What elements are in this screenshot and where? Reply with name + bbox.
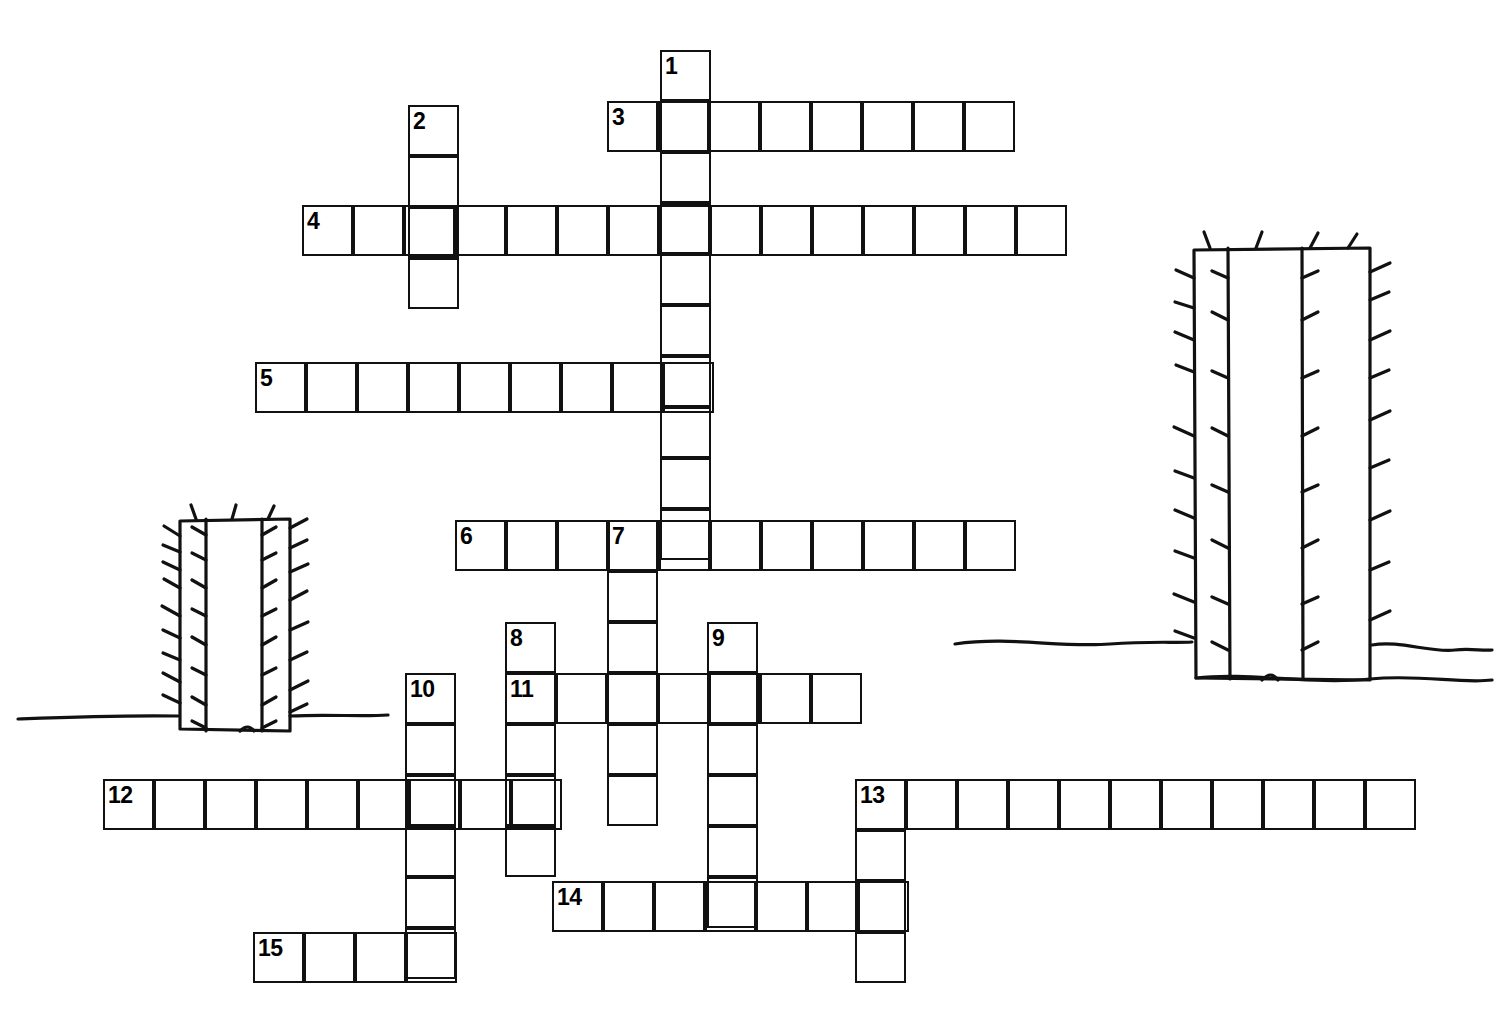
crossword-cell[interactable] (1212, 779, 1263, 830)
crossword-cell[interactable] (660, 458, 711, 509)
crossword-cell[interactable] (505, 724, 556, 775)
crossword-cell[interactable] (906, 779, 957, 830)
crossword-cell[interactable] (561, 362, 612, 413)
crossword-cell[interactable] (603, 881, 654, 932)
crossword-cell[interactable] (557, 205, 608, 256)
crossword-cell[interactable] (406, 932, 457, 983)
crossword-cell[interactable] (1263, 779, 1314, 830)
crossword-cell[interactable] (409, 779, 460, 830)
crossword-cell[interactable] (707, 826, 758, 877)
clue-number-14: 14 (557, 886, 582, 909)
crossword-cell[interactable] (607, 775, 658, 826)
crossword-cell[interactable] (1365, 779, 1416, 830)
clue-number-13: 13 (860, 784, 885, 807)
crossword-cell[interactable] (663, 362, 714, 413)
crossword-cell[interactable] (862, 101, 913, 152)
crossword-cell[interactable] (811, 673, 862, 724)
crossword-cell[interactable] (306, 362, 357, 413)
crossword-cell[interactable] (965, 520, 1016, 571)
crossword-cell[interactable] (913, 101, 964, 152)
crossword-cell[interactable] (353, 205, 404, 256)
crossword-cell[interactable] (460, 779, 511, 830)
crossword-cell[interactable] (964, 101, 1015, 152)
crossword-cell[interactable] (506, 205, 557, 256)
crossword-cell[interactable] (154, 779, 205, 830)
crossword-cell[interactable] (855, 830, 906, 881)
crossword-cell[interactable] (710, 520, 761, 571)
crossword-cell[interactable] (557, 520, 608, 571)
crossword-cell[interactable] (812, 520, 863, 571)
crossword-grid[interactable]: 123456789101112131415 (0, 0, 1497, 1022)
crossword-cell[interactable] (914, 520, 965, 571)
crossword-cell[interactable] (660, 305, 711, 356)
crossword-cell[interactable] (556, 673, 607, 724)
crossword-cell[interactable] (709, 673, 760, 724)
crossword-cell[interactable] (705, 881, 756, 932)
crossword-cell[interactable] (863, 205, 914, 256)
crossword-cell[interactable] (1059, 779, 1110, 830)
crossword-cell[interactable] (1161, 779, 1212, 830)
crossword-cell[interactable] (404, 205, 455, 256)
crossword-cell[interactable] (654, 881, 705, 932)
crossword-cell[interactable] (408, 258, 459, 309)
crossword-cell[interactable] (965, 205, 1016, 256)
crossword-cell[interactable] (855, 932, 906, 983)
crossword-cell[interactable] (957, 779, 1008, 830)
crossword-cell[interactable] (455, 205, 506, 256)
crossword-cell[interactable] (408, 156, 459, 207)
clue-number-3: 3 (612, 106, 624, 129)
crossword-cell[interactable] (511, 779, 562, 830)
crossword-cell[interactable] (607, 571, 658, 622)
crossword-cell[interactable] (506, 520, 557, 571)
crossword-cell[interactable] (659, 205, 710, 256)
crossword-cell[interactable] (405, 724, 456, 775)
crossword-cell[interactable] (357, 362, 408, 413)
crossword-cell[interactable] (812, 205, 863, 256)
crossword-cell[interactable] (756, 881, 807, 932)
clue-number-15: 15 (258, 937, 283, 960)
crossword-cell[interactable] (658, 101, 709, 152)
crossword-cell[interactable] (709, 101, 760, 152)
crossword-cell[interactable] (660, 254, 711, 305)
crossword-cell[interactable] (608, 205, 659, 256)
crossword-cell[interactable] (607, 673, 658, 724)
crossword-cell[interactable] (1110, 779, 1161, 830)
crossword-cell[interactable] (1016, 205, 1067, 256)
crossword-cell[interactable] (1314, 779, 1365, 830)
crossword-cell[interactable] (607, 724, 658, 775)
clue-number-8: 8 (510, 627, 522, 650)
crossword-cell[interactable] (405, 877, 456, 928)
crossword-cell[interactable] (607, 622, 658, 673)
crossword-cell[interactable] (707, 775, 758, 826)
crossword-cell[interactable] (863, 520, 914, 571)
crossword-cell[interactable] (914, 205, 965, 256)
crossword-cell[interactable] (405, 826, 456, 877)
crossword-cell[interactable] (658, 673, 709, 724)
crossword-cell[interactable] (459, 362, 510, 413)
crossword-cell[interactable] (1008, 779, 1059, 830)
crossword-cell[interactable] (660, 407, 711, 458)
crossword-cell[interactable] (707, 724, 758, 775)
crossword-cell[interactable] (307, 779, 358, 830)
crossword-cell[interactable] (807, 881, 858, 932)
clue-number-5: 5 (260, 367, 272, 390)
crossword-cell[interactable] (760, 101, 811, 152)
crossword-cell[interactable] (761, 520, 812, 571)
crossword-cell[interactable] (205, 779, 256, 830)
crossword-cell[interactable] (858, 881, 909, 932)
crossword-cell[interactable] (710, 205, 761, 256)
crossword-cell[interactable] (408, 362, 459, 413)
crossword-cell[interactable] (659, 520, 710, 571)
crossword-cell[interactable] (761, 205, 812, 256)
crossword-cell[interactable] (505, 826, 556, 877)
crossword-cell[interactable] (358, 779, 409, 830)
crossword-cell[interactable] (510, 362, 561, 413)
crossword-cell[interactable] (760, 673, 811, 724)
crossword-cell[interactable] (811, 101, 862, 152)
crossword-cell[interactable] (660, 152, 711, 203)
crossword-cell[interactable] (355, 932, 406, 983)
crossword-cell[interactable] (304, 932, 355, 983)
crossword-cell[interactable] (256, 779, 307, 830)
clue-number-1: 1 (665, 55, 677, 78)
crossword-cell[interactable] (612, 362, 663, 413)
